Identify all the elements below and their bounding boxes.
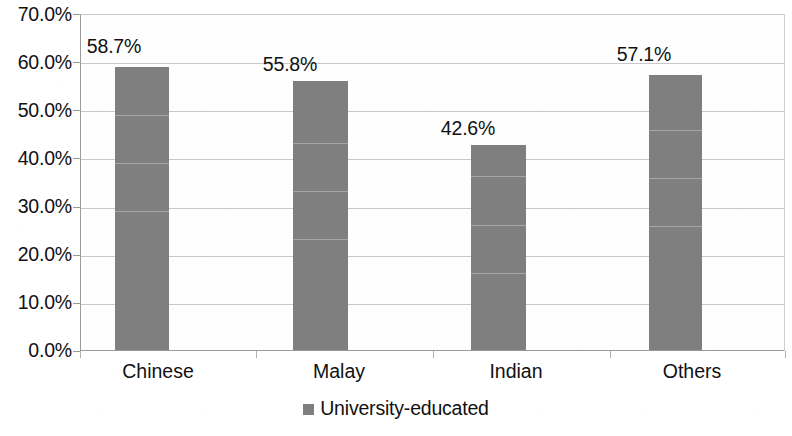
bar-gridline-overlay: [115, 115, 169, 116]
chart-legend: University-educated: [0, 398, 792, 419]
bar-chart: 70.0% 60.0% 50.0% 40.0% 30.0% 20.0% 10.0…: [0, 0, 792, 436]
bar-gridline-overlay: [649, 226, 702, 227]
y-axis-label: 70.0%: [0, 5, 72, 25]
bar-others[interactable]: [649, 75, 702, 350]
bar-malay[interactable]: [293, 81, 348, 350]
y-axis-label: 40.0%: [0, 149, 72, 169]
legend-entry-label: University-educated: [320, 398, 489, 419]
data-label-malay: 55.8%: [240, 55, 340, 75]
data-label-others: 57.1%: [594, 45, 694, 65]
bar-chinese[interactable]: [115, 67, 169, 350]
data-label-chinese: 58.7%: [64, 37, 164, 57]
bar-gridline-overlay: [471, 176, 526, 177]
bar-gridline-overlay: [649, 178, 702, 179]
bar-gridline-overlay: [115, 211, 169, 212]
y-axis-label: 50.0%: [0, 101, 72, 121]
bar-gridline-overlay: [649, 130, 702, 131]
x-axis-label-malay: Malay: [272, 360, 406, 382]
x-axis-tick: [785, 351, 786, 358]
x-axis-label-others: Others: [625, 360, 759, 382]
bar-gridline-overlay: [115, 163, 169, 164]
x-axis-tick: [256, 351, 257, 358]
bar-gridline-overlay: [293, 239, 348, 240]
y-axis-label: 60.0%: [0, 53, 72, 73]
x-axis-tick: [80, 351, 81, 358]
x-axis-label-chinese: Chinese: [91, 360, 225, 382]
bar-gridline-overlay: [293, 191, 348, 192]
bar-gridline-overlay: [471, 225, 526, 226]
x-axis-label-indian: Indian: [449, 360, 583, 382]
y-axis-label: 0.0%: [0, 341, 72, 361]
y-axis-label: 10.0%: [0, 293, 72, 313]
y-axis: 70.0% 60.0% 50.0% 40.0% 30.0% 20.0% 10.0…: [0, 0, 72, 436]
data-label-indian: 42.6%: [418, 119, 518, 139]
x-axis-tick: [433, 351, 434, 358]
plot-area: [80, 14, 785, 351]
legend-swatch-icon: [303, 404, 314, 415]
y-axis-label: 20.0%: [0, 245, 72, 265]
y-axis-label: 30.0%: [0, 197, 72, 217]
x-axis-tick: [610, 351, 611, 358]
bar-gridline-overlay: [293, 143, 348, 144]
bar-indian[interactable]: [471, 145, 526, 350]
bar-gridline-overlay: [471, 273, 526, 274]
